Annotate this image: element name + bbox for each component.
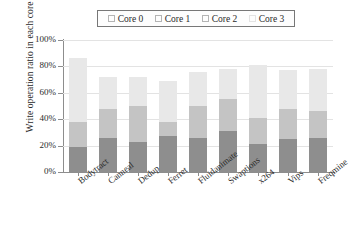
legend-swatch-core-2-icon xyxy=(202,15,209,22)
gridline xyxy=(63,40,333,41)
bar-segment[interactable] xyxy=(189,72,207,106)
y-axis-tick-label: 100% xyxy=(22,35,56,44)
bar-segment[interactable] xyxy=(249,65,267,118)
legend-label-core-0: Core 0 xyxy=(118,14,144,24)
legend-swatch-core-3-icon xyxy=(249,15,256,22)
legend-item-core-2: Core 2 xyxy=(202,14,238,24)
bar-group[interactable] xyxy=(69,58,87,172)
bar-segment[interactable] xyxy=(309,138,327,172)
bar-group[interactable] xyxy=(249,65,267,172)
bar-group[interactable] xyxy=(189,72,207,172)
bar-segment[interactable] xyxy=(189,106,207,138)
bar-group[interactable] xyxy=(279,70,297,172)
legend-swatch-core-1-icon xyxy=(155,15,162,22)
y-axis-tick-mark xyxy=(58,146,63,147)
y-axis-tick-label: 80% xyxy=(22,61,56,70)
bar-segment[interactable] xyxy=(279,139,297,172)
bar-segment[interactable] xyxy=(219,69,237,99)
bar-group[interactable] xyxy=(159,81,177,172)
bar-segment[interactable] xyxy=(159,136,177,172)
legend-item-core-3: Core 3 xyxy=(249,14,285,24)
bar-segment[interactable] xyxy=(99,109,117,138)
gridline xyxy=(63,66,333,67)
bar-segment[interactable] xyxy=(69,122,87,147)
bar-segment[interactable] xyxy=(99,77,117,109)
bar-segment[interactable] xyxy=(309,69,327,111)
bar-segment[interactable] xyxy=(279,70,297,108)
y-axis-tick-label: 0% xyxy=(22,167,56,176)
y-axis-tick-label: 20% xyxy=(22,141,56,150)
bar-segment[interactable] xyxy=(219,99,237,131)
y-axis-tick-label: 60% xyxy=(22,88,56,97)
bar-segment[interactable] xyxy=(279,109,297,139)
bar-segment[interactable] xyxy=(69,58,87,121)
legend-label-core-3: Core 3 xyxy=(259,14,285,24)
legend-label-core-2: Core 2 xyxy=(212,14,238,24)
bar-segment[interactable] xyxy=(189,138,207,172)
bar-segment[interactable] xyxy=(309,111,327,137)
bar-segment[interactable] xyxy=(129,77,147,106)
y-axis-tick-labels: 100%80%60%40%20%0% xyxy=(20,0,56,231)
bar-group[interactable] xyxy=(129,77,147,172)
y-axis-tick-mark xyxy=(58,119,63,120)
y-axis-tick-label: 40% xyxy=(22,114,56,123)
plot-area xyxy=(63,40,333,172)
bar-segment[interactable] xyxy=(159,122,177,137)
bar-group[interactable] xyxy=(309,69,327,172)
chart-legend: Core 0 Core 1 Core 2 Core 3 xyxy=(97,10,295,27)
y-axis-tick-mark xyxy=(58,172,63,173)
bar-segment[interactable] xyxy=(159,81,177,122)
bar-segment[interactable] xyxy=(69,147,87,172)
y-axis-tick-mark xyxy=(58,93,63,94)
legend-item-core-0: Core 0 xyxy=(108,14,144,24)
y-axis-tick-mark xyxy=(58,66,63,67)
bar-segment[interactable] xyxy=(129,106,147,142)
legend-label-core-1: Core 1 xyxy=(165,14,191,24)
bar-segment[interactable] xyxy=(249,118,267,144)
legend-swatch-core-0-icon xyxy=(108,15,115,22)
legend-item-core-1: Core 1 xyxy=(155,14,191,24)
y-axis-tick-mark xyxy=(58,40,63,41)
